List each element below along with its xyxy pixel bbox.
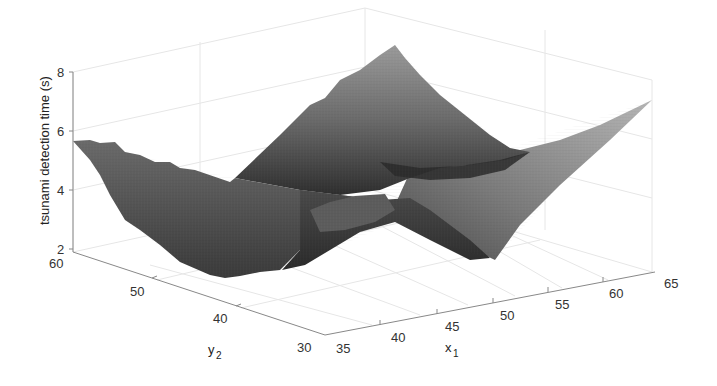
z-tick-4: 4	[57, 183, 64, 198]
svg-text:y: y	[208, 342, 215, 357]
x-tick-45: 45	[445, 319, 459, 334]
y-axis-label: y 2	[208, 342, 222, 361]
x-tick-35: 35	[336, 341, 350, 356]
z-axis-label: tsunami detection time (s)	[37, 76, 52, 225]
x-axis-label: x 1	[445, 340, 459, 359]
z-tick-2: 2	[57, 242, 64, 257]
y-tick-30: 30	[297, 340, 311, 355]
surface	[73, 45, 652, 278]
svg-text:1: 1	[453, 348, 459, 359]
y-tick-60: 60	[49, 256, 63, 271]
y-tick-50: 50	[130, 284, 144, 299]
x-tick-50: 50	[500, 308, 514, 323]
x-tick-65: 65	[664, 276, 678, 291]
svg-text:2: 2	[216, 350, 222, 361]
x-tick-60: 60	[609, 286, 623, 301]
z-tick-6: 6	[57, 124, 64, 139]
y-tick-40: 40	[213, 311, 227, 326]
z-tick-8: 8	[57, 65, 64, 80]
svg-text:x: x	[445, 340, 452, 355]
x-tick-55: 55	[555, 297, 569, 312]
surface-chart: 8 6 4 2 60 50 40 30 35 40 45 50 55 60 65…	[0, 0, 717, 386]
x-tick-40: 40	[391, 330, 405, 345]
x-axis	[325, 272, 655, 335]
